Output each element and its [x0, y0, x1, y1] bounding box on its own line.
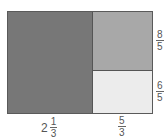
whole-number: 2	[41, 121, 48, 135]
numerator: 5	[118, 116, 126, 127]
numerator: 1	[50, 117, 58, 128]
bottom-left-width-label: 2 1 3	[41, 117, 57, 138]
outer-rectangle-border	[7, 11, 153, 114]
denominator: 5	[157, 92, 163, 103]
right-bottom-length-label: 6 5	[156, 81, 164, 103]
area-model-diagram: 8 5 6 5 2 1 3 5 3	[0, 0, 166, 138]
numerator: 8	[156, 30, 164, 41]
denominator: 5	[157, 41, 163, 52]
right-top-length-label: 8 5	[156, 30, 164, 52]
denominator: 3	[51, 128, 57, 138]
numerator: 6	[156, 81, 164, 92]
denominator: 3	[119, 127, 125, 138]
bottom-right-width-label: 5 3	[118, 116, 126, 138]
fraction: 1 3	[50, 117, 58, 138]
